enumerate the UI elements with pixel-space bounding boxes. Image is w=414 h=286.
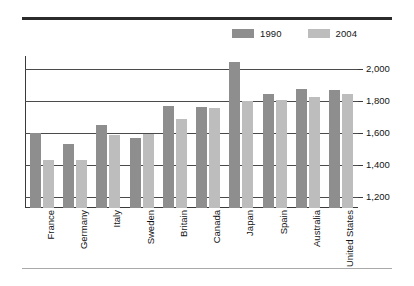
chart-figure: 1990 2004 1,2001,4001,6001,8002,000 Fran…: [0, 0, 414, 286]
y-tick-label-1600: 1,600: [366, 128, 390, 138]
bar-2004: [276, 100, 287, 208]
y-tick-label-1400: 1,400: [366, 160, 390, 170]
bars-layer: [25, 56, 358, 208]
bar-1990: [96, 125, 107, 208]
x-category-label: Spain: [279, 210, 289, 234]
bar-1990: [263, 94, 274, 208]
x-category-label: Britain: [179, 210, 189, 237]
x-category-label: Italy: [112, 210, 122, 227]
y-tick-mark-1800: [358, 101, 363, 102]
legend-swatch-1990: [232, 29, 254, 38]
bar-2004: [242, 101, 253, 208]
bottom-divider-rule: [22, 268, 392, 269]
y-tick-label-1200: 1,200: [366, 192, 390, 202]
bar-1990: [130, 138, 141, 208]
chart-legend: 1990 2004: [232, 27, 357, 40]
bar-2004: [43, 160, 54, 208]
y-tick-mark-1400: [358, 165, 363, 166]
x-axis-category-labels: FranceGermanyItalySwedenBritainCanadaJap…: [25, 210, 358, 268]
bar-2004: [176, 119, 187, 208]
y-tick-mark-1600: [358, 133, 363, 134]
bar-group: [163, 56, 187, 208]
bar-1990: [30, 133, 41, 208]
legend-label-2004: 2004: [336, 29, 358, 39]
bar-2004: [143, 134, 154, 208]
bar-group: [130, 56, 154, 208]
legend-label-1990: 1990: [260, 29, 282, 39]
bar-2004: [309, 97, 320, 208]
legend-entry-2004: 2004: [308, 29, 358, 39]
bar-group: [263, 56, 287, 208]
x-category-label: Australia: [312, 210, 322, 247]
bar-group: [296, 56, 320, 208]
x-category-label: Canada: [212, 210, 222, 243]
bar-1990: [296, 89, 307, 208]
bar-group: [329, 56, 353, 208]
legend-entry-1990: 1990: [232, 29, 282, 39]
bar-1990: [329, 90, 340, 208]
x-category-label: Sweden: [146, 210, 156, 244]
bar-1990: [63, 144, 74, 208]
bar-2004: [342, 94, 353, 208]
bar-1990: [229, 62, 240, 208]
y-tick-label-1800: 1,800: [366, 96, 390, 106]
bar-group: [196, 56, 220, 208]
bar-group: [96, 56, 120, 208]
bar-2004: [109, 135, 120, 208]
x-category-label: France: [46, 210, 56, 240]
x-category-label: United States: [345, 210, 355, 267]
y-tick-label-2000: 2,000: [366, 64, 390, 74]
bar-1990: [196, 107, 207, 208]
x-category-label: Germany: [79, 210, 89, 249]
bar-group: [30, 56, 54, 208]
y-tick-mark-1200: [358, 197, 363, 198]
bar-group: [63, 56, 87, 208]
top-divider-rule: [22, 17, 392, 20]
x-category-label: Japan: [245, 210, 255, 236]
bar-group: [229, 56, 253, 208]
bar-2004: [209, 108, 220, 208]
bar-1990: [163, 106, 174, 208]
y-tick-mark-2000: [358, 69, 363, 70]
legend-swatch-2004: [308, 29, 330, 38]
bar-2004: [76, 160, 87, 208]
